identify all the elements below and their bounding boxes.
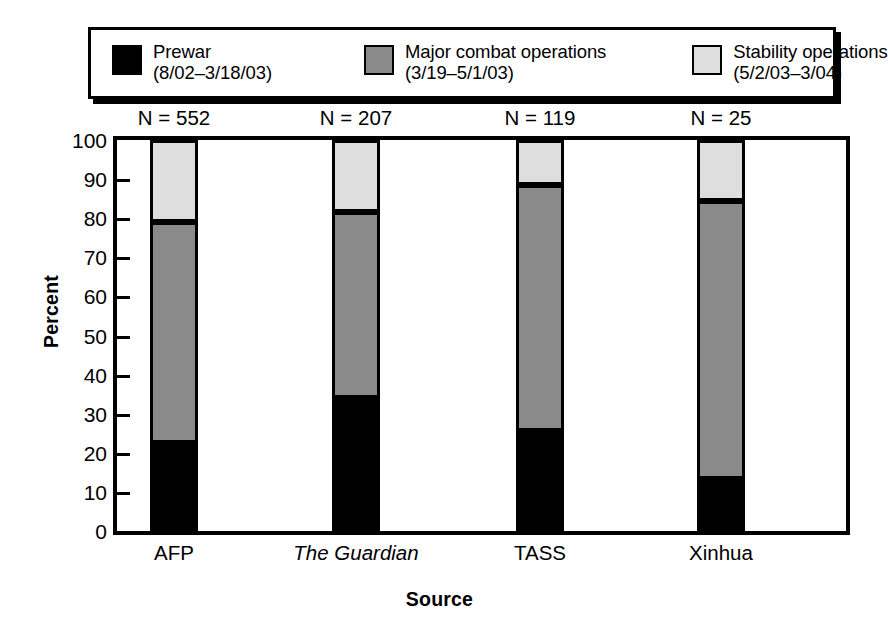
y-tick-50 (117, 336, 130, 339)
legend-label-major-combat-operations: Major combat operations (405, 42, 606, 63)
bar-segment-the-guardian-stability-operations[interactable] (332, 140, 380, 212)
legend-text-major-combat-operations: Major combat operations (3/19–5/1/03) (405, 42, 606, 83)
legend-items: Prewar (8/02–3/18/03) Major combat opera… (91, 30, 833, 96)
legend-label-stability-operations: Stability operations (733, 42, 887, 63)
y-tick-label-40: 40 (61, 364, 107, 385)
y-tick-80 (117, 218, 130, 221)
y-tick-20 (117, 453, 130, 456)
legend-item-prewar: Prewar (8/02–3/18/03) (112, 42, 272, 83)
y-tick-40 (117, 375, 130, 378)
legend-sub-stability-operations: (5/2/03–3/04) (733, 63, 887, 84)
bar-xinhua[interactable] (697, 140, 745, 531)
x-tick-label-xinhua: Xinhua (626, 543, 816, 564)
bar-segment-afp-prewar[interactable] (150, 443, 198, 531)
y-tick-label-100: 100 (61, 130, 107, 151)
x-tick-label-afp: AFP (79, 543, 269, 564)
sample-size-label-afp: N = 552 (99, 108, 249, 129)
legend-swatch-prewar (112, 45, 142, 75)
y-tick-label-60: 60 (61, 286, 107, 307)
legend-sub-prewar: (8/02–3/18/03) (153, 63, 272, 84)
bar-segment-the-guardian-major-combat-operations[interactable] (332, 212, 380, 398)
y-tick-label-70: 70 (61, 247, 107, 268)
bar-segment-tass-major-combat-operations[interactable] (516, 185, 564, 431)
y-axis-tick-labels: 100 90 80 70 60 50 40 30 20 10 0 (55, 140, 107, 531)
x-tick-label-tass: TASS (445, 543, 635, 564)
bar-segment-tass-stability-operations[interactable] (516, 140, 564, 185)
legend-swatch-stability-operations (692, 45, 722, 75)
bar-segment-xinhua-stability-operations[interactable] (697, 140, 745, 201)
legend-swatch-major-combat-operations (364, 45, 394, 75)
y-tick-label-0: 0 (61, 521, 107, 542)
bar-the-guardian[interactable] (332, 140, 380, 531)
y-tick-90 (117, 179, 130, 182)
bar-segment-xinhua-major-combat-operations[interactable] (697, 201, 745, 479)
legend-text-prewar: Prewar (8/02–3/18/03) (153, 42, 272, 83)
legend-text-stability-operations: Stability operations (5/2/03–3/04) (733, 42, 887, 83)
sample-size-label-the-guardian: N = 207 (281, 108, 431, 129)
legend-item-stability-operations: Stability operations (5/2/03–3/04) (692, 42, 887, 83)
chart-legend: Prewar (8/02–3/18/03) Major combat opera… (88, 27, 836, 99)
bar-segment-afp-stability-operations[interactable] (150, 140, 198, 222)
legend-label-prewar: Prewar (153, 42, 272, 63)
x-axis-title: Source (0, 588, 879, 611)
y-tick-label-80: 80 (61, 208, 107, 229)
y-tick-label-10: 10 (61, 481, 107, 502)
y-tick-label-90: 90 (61, 169, 107, 190)
bar-segment-tass-prewar[interactable] (516, 431, 564, 531)
bar-tass[interactable] (516, 140, 564, 531)
y-tick-60 (117, 296, 130, 299)
y-tick-label-50: 50 (61, 325, 107, 346)
sample-size-label-tass: N = 119 (465, 108, 615, 129)
sample-size-label-xinhua: N = 25 (646, 108, 796, 129)
bar-segment-the-guardian-prewar[interactable] (332, 398, 380, 531)
plot-area (117, 140, 846, 531)
y-tick-10 (117, 492, 130, 495)
x-tick-label-the-guardian: The Guardian (261, 543, 451, 564)
y-tick-label-20: 20 (61, 442, 107, 463)
bar-segment-afp-major-combat-operations[interactable] (150, 222, 198, 443)
bar-afp[interactable] (150, 140, 198, 531)
y-tick-30 (117, 414, 130, 417)
y-tick-label-30: 30 (61, 403, 107, 424)
bar-segment-xinhua-prewar[interactable] (697, 479, 745, 531)
legend-item-major-combat-operations: Major combat operations (3/19–5/1/03) (364, 42, 606, 83)
legend-sub-major-combat-operations: (3/19–5/1/03) (405, 63, 606, 84)
y-tick-70 (117, 257, 130, 260)
